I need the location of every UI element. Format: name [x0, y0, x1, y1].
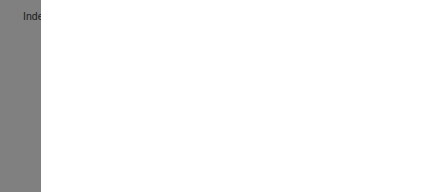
y-axis-label-self-care-difficulty: Self-care difficulty: [0, 34, 41, 45]
y-axis-label-cognitive-difficulty: Cognitive difficulty: [0, 79, 41, 90]
y-axis-label-hearing-difficulty: Hearing difficulty: [0, 124, 41, 135]
y-axis-label-any-disability: Any disability: [0, 147, 41, 158]
y-axis-label-ambulatory-difficulty: Ambulatory difficulty: [0, 56, 41, 67]
bar-chart: Independent living difficulty Self-care …: [0, 0, 41, 192]
y-axis-label-vision-difficulty: Vision difficulty: [0, 102, 41, 113]
y-axis-category-labels: Independent living difficulty Self-care …: [0, 6, 41, 165]
y-axis-label-independent-living-difficulty: Independent living difficulty: [0, 11, 41, 22]
